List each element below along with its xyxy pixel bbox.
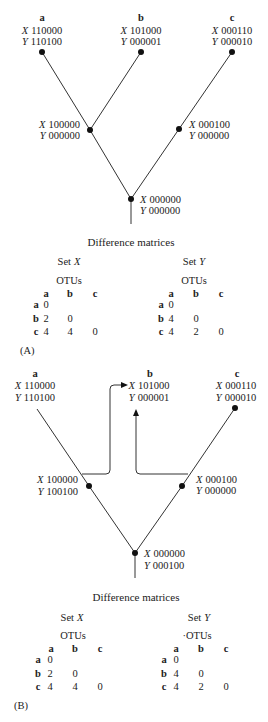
node-c-y-state: Y000000 <box>196 485 236 496</box>
tip-c-y-state: Y000010 <box>216 392 256 403</box>
row-header: a <box>33 299 39 310</box>
row-header: b <box>35 668 41 679</box>
column-header: a <box>48 643 54 654</box>
tip-b-label: b <box>147 368 153 379</box>
arrow-right-icon <box>121 382 128 388</box>
column-header: b <box>198 643 204 654</box>
row-header: c <box>34 326 39 337</box>
branch-c-to-node-c <box>179 52 232 129</box>
otus-label: OTUs <box>60 630 86 641</box>
branch-node-ab-to-root <box>89 486 135 553</box>
row-header: a <box>35 654 41 665</box>
matrix-cell: 0 <box>193 313 198 324</box>
node-c-x-state: X000100 <box>195 474 237 485</box>
root-y-state: Y000100 <box>144 560 184 571</box>
tip-b-x-state: X101000 <box>128 380 170 391</box>
matrix-cell: 0 <box>97 681 102 692</box>
tip-a-x-state: X110000 <box>14 380 56 391</box>
row-header: a <box>161 654 167 665</box>
node-ab-y-state: Y100100 <box>38 486 78 497</box>
matrices-title: Difference matrices <box>88 236 175 248</box>
matrix-cell: 0 <box>218 326 223 337</box>
tip-a-y-state: Y110100 <box>22 36 62 47</box>
otus-label: OTUs <box>56 275 82 286</box>
internal-node-ab <box>86 483 92 489</box>
tip-b-x-state: X101000 <box>120 25 162 36</box>
matrix-cell: 0 <box>173 654 178 665</box>
otus-label: OTUs <box>181 275 207 286</box>
row-header: c <box>162 681 167 692</box>
row-header: b <box>33 313 39 324</box>
node-ab-x-state: X100000 <box>38 119 80 130</box>
otus-label: ·OTUs <box>182 630 211 641</box>
matrix-set-y: SetY OTUs a b c a 0 b 4 0 c 4 2 0 <box>158 256 224 337</box>
column-header: c <box>224 643 229 654</box>
matrix-set-x: SetX OTUs a b c a 0 b 2 0 c 4 4 0 <box>33 256 98 337</box>
matrix-cell: 4 <box>168 313 174 324</box>
column-header: c <box>98 643 103 654</box>
matrix-cell: 4 <box>173 668 179 679</box>
internal-node-ab <box>87 127 93 133</box>
matrix-cell: 2 <box>193 326 198 337</box>
tip-c-node <box>232 405 238 411</box>
tip-c-label: c <box>230 12 235 23</box>
internal-node-c <box>179 483 185 489</box>
matrix-title: SetY <box>183 256 206 267</box>
tip-b-y-state: Y000001 <box>121 36 161 47</box>
matrix-cell: 4 <box>173 681 179 692</box>
tip-a-label: a <box>39 12 45 23</box>
tip-c-x-state: X000110 <box>211 25 253 36</box>
matrix-set-y: SetY ·OTUs a b c a 0 b 4 0 c 4 2 0 <box>161 612 229 692</box>
matrix-cell: 0 <box>198 668 203 679</box>
row-header: a <box>158 299 164 310</box>
tip-a-y-state: Y110100 <box>15 392 55 403</box>
column-header: b <box>67 288 73 299</box>
column-header: b <box>193 288 199 299</box>
row-header: c <box>36 681 41 692</box>
convergence-path-right <box>136 415 188 474</box>
root-node <box>132 550 138 556</box>
matrix-title: SetY <box>188 612 211 623</box>
tip-a-label: a <box>32 368 38 379</box>
tip-c-y-state: Y000010 <box>212 36 252 47</box>
matrix-title: SetX <box>58 256 81 267</box>
branch-node-c-to-root <box>135 486 182 553</box>
tip-c-label: c <box>235 368 240 379</box>
tip-b-y-state: Y000001 <box>129 392 169 403</box>
column-header: c <box>219 288 224 299</box>
column-header: c <box>93 288 98 299</box>
root-node <box>128 196 134 202</box>
row-header: b <box>161 668 167 679</box>
row-header: c <box>159 326 164 337</box>
column-header: a <box>43 288 49 299</box>
phylogeny-figure: a X110000 Y110100 b X101000 Y000001 c X0… <box>0 0 268 722</box>
branch-b-to-node-ab <box>90 52 141 130</box>
convergence-path-left <box>82 385 122 474</box>
column-header: a <box>173 643 179 654</box>
matrix-set-x: SetX OTUs a b c a 0 b 2 0 c 4 4 0 <box>35 612 103 692</box>
panel-label-a: (A) <box>20 345 35 357</box>
root-x-state: X000000 <box>139 194 181 205</box>
node-c-y-state: Y000000 <box>189 130 229 141</box>
panel-b: a X110000 Y110100 b X101000 Y000001 c X0… <box>14 368 257 712</box>
tip-b-node <box>138 49 144 55</box>
matrix-cell: 0 <box>67 313 72 324</box>
tip-b-label: b <box>138 12 144 23</box>
matrix-title: SetX <box>61 612 84 623</box>
column-header: b <box>72 643 78 654</box>
tip-c-node <box>229 49 235 55</box>
matrix-cell: 4 <box>168 326 174 337</box>
matrix-cell: 0 <box>168 299 173 310</box>
node-ab-y-state: Y000000 <box>40 130 80 141</box>
node-ab-x-state: X100000 <box>36 474 78 485</box>
column-header: a <box>168 288 174 299</box>
matrix-cell: 2 <box>198 681 203 692</box>
matrix-cell: 2 <box>47 668 52 679</box>
matrix-cell: 0 <box>47 654 52 665</box>
internal-node-c <box>176 126 182 132</box>
matrix-cell: 0 <box>223 681 228 692</box>
matrix-cell: 4 <box>47 681 53 692</box>
branch-node-ab-to-root <box>90 130 131 199</box>
arrow-up-icon <box>133 409 139 416</box>
tip-c-x-state: X000110 <box>215 380 257 391</box>
